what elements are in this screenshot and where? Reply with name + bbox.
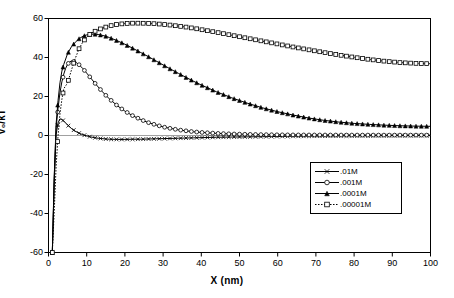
x-tick-label: 10 xyxy=(72,259,102,268)
y-tick-label: -20 xyxy=(14,170,43,179)
legend-label: .00001M xyxy=(340,199,371,210)
x-tick-label: 90 xyxy=(377,259,407,268)
plot-canvas xyxy=(0,0,454,298)
x-tick-label: 0 xyxy=(34,259,64,268)
legend-item: .0001M xyxy=(314,188,398,199)
legend-label: .01M xyxy=(340,166,358,177)
legend-item: .001M xyxy=(314,177,398,188)
x-tick-label: 40 xyxy=(186,259,216,268)
x-tick-label: 100 xyxy=(416,259,446,268)
x-tick-label: 70 xyxy=(301,259,331,268)
y-tick-label: -40 xyxy=(14,209,43,218)
legend-triangle-icon xyxy=(314,188,340,199)
legend-item: .00001M xyxy=(314,199,398,210)
x-tick-label: 80 xyxy=(339,259,369,268)
y-tick-label: 0 xyxy=(14,131,43,140)
x-axis-title: X (nm) xyxy=(0,275,454,286)
legend-item: .01M xyxy=(314,166,398,177)
y-tick-label: 40 xyxy=(14,53,43,62)
legend-label: .001M xyxy=(340,177,362,188)
legend-x-icon xyxy=(314,166,340,177)
y-axis-title: V₀/kT xyxy=(0,102,7,142)
legend-label: .0001M xyxy=(340,188,367,199)
chart-figure: -60-40-200204060 0102030405060708090100 … xyxy=(0,0,454,298)
x-tick-label: 60 xyxy=(263,259,293,268)
legend-square-icon xyxy=(314,199,340,210)
x-tick-label: 20 xyxy=(110,259,140,268)
y-tick-label: -60 xyxy=(14,248,43,257)
y-tick-label: 60 xyxy=(14,14,43,23)
legend-circle-icon xyxy=(314,177,340,188)
x-tick-label: 30 xyxy=(148,259,178,268)
x-tick-label: 50 xyxy=(225,259,255,268)
y-tick-label: 20 xyxy=(14,92,43,101)
chart-legend: .01M.001M.0001M.00001M xyxy=(310,162,402,214)
